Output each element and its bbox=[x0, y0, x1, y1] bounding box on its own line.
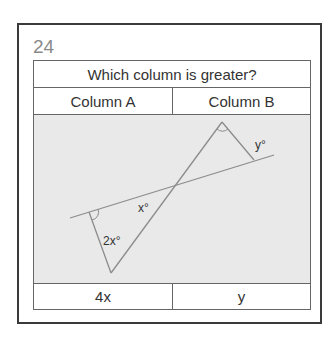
two-x-angle-label: 2x° bbox=[103, 234, 121, 248]
x-angle-label: x° bbox=[138, 201, 149, 215]
right-triangle-leg bbox=[222, 122, 254, 160]
cross-line bbox=[111, 122, 222, 273]
transversal-line bbox=[70, 155, 274, 218]
geometry-figure: x° 2x° y° bbox=[0, 0, 335, 348]
top-angle-arc-icon bbox=[217, 129, 228, 131]
y-angle-label: y° bbox=[255, 138, 266, 152]
